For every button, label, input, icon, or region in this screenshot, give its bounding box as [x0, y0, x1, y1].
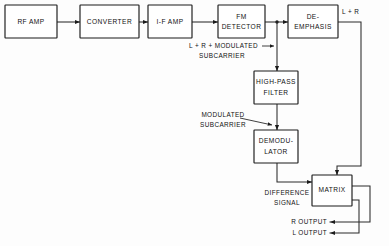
signal-label-l-output: L OUTPUT: [292, 229, 327, 236]
block-high-pass-filter: [254, 71, 298, 104]
signal-label-difference-signal-line1: DIFFERENCE: [265, 189, 310, 196]
block-label-demodulator-line2: LATOR: [264, 148, 288, 155]
block-label-fm-detector-line2: DETECTOR: [222, 23, 262, 30]
block-label-high-pass-filter-line2: FILTER: [264, 89, 289, 96]
block-label-fm-detector-line1: FM: [236, 13, 246, 20]
block-demodulator: [254, 130, 298, 163]
block-label-demodulator-line1: DEMODU-: [259, 137, 294, 144]
wire-deemphasis-to-matrix: [337, 22, 361, 175]
signal-label-modulated-subcarrier-line2: SUBCARRIER: [200, 121, 246, 128]
fm-stereo-receiver-block-diagram: RF AMP CONVERTER I-F AMP FM DETECTOR DE-…: [0, 0, 389, 246]
diagram-canvas: RF AMP CONVERTER I-F AMP FM DETECTOR DE-…: [0, 0, 389, 246]
signal-label-r-output: R OUTPUT: [291, 218, 327, 225]
block-fm-detector: [218, 5, 265, 38]
wire-demodulator-to-matrix: [277, 163, 312, 182]
signal-label-difference-signal-line2: SIGNAL: [274, 199, 300, 206]
signal-label-l-plus-r-plus-modulated-line1: L + R + MODULATED: [189, 42, 258, 49]
block-label-de-emphasis-line2: EMPHASIS: [294, 23, 332, 30]
block-label-high-pass-filter-line1: HIGH-PASS: [256, 78, 296, 85]
block-label-rf-amp: RF AMP: [17, 18, 44, 25]
block-de-emphasis: [288, 5, 338, 38]
block-label-matrix: MATRIX: [318, 186, 345, 193]
block-label-de-emphasis-line1: DE-: [307, 13, 320, 20]
block-label-if-amp: I-F AMP: [157, 18, 184, 25]
block-label-converter: CONVERTER: [87, 18, 132, 25]
signal-label-l-plus-r: L + R: [342, 8, 359, 15]
signal-label-modulated-subcarrier-line1: MODULATED: [201, 111, 244, 118]
signal-label-l-plus-r-plus-modulated-line2: SUBCARRIER: [199, 52, 245, 59]
